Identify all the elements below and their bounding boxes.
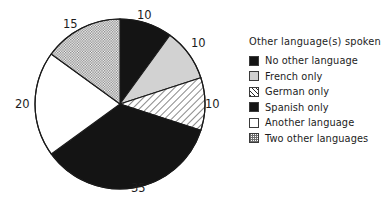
legend-swatch-icon	[249, 87, 259, 97]
legend-title: Other language(s) spoken	[249, 36, 387, 47]
legend-swatch-icon	[249, 102, 259, 112]
legend-item-label: German only	[265, 86, 329, 97]
pie-slices-group	[35, 19, 205, 189]
pie-chart-figure: 10 10 10 35 20 15 Other language(s) spok…	[0, 0, 389, 201]
legend-item-label: Another language	[265, 117, 354, 128]
pie-label-french-only: 10	[191, 38, 206, 50]
pie-svg	[0, 0, 240, 201]
legend-item-label: No other language	[265, 55, 358, 66]
legend-item-label: French only	[265, 71, 322, 82]
pie-label-another-language: 20	[15, 99, 30, 111]
legend-item-spanish-only: Spanish only	[249, 100, 387, 116]
legend-swatch-icon	[249, 71, 259, 81]
legend-item-two-other-languages: Two other languages	[249, 131, 387, 147]
pie-label-german-only: 10	[205, 99, 220, 111]
pie-label-two-other-languages: 15	[63, 19, 78, 31]
legend-item-french-only: French only	[249, 69, 387, 85]
legend-item-label: Two other languages	[265, 133, 368, 144]
legend-swatch-icon	[249, 133, 259, 143]
legend-item-german-only: German only	[249, 84, 387, 100]
legend-item-no-other-language: No other language	[249, 53, 387, 69]
legend-swatch-icon	[249, 56, 259, 66]
legend-item-another-language: Another language	[249, 115, 387, 131]
pie-label-no-other-language: 10	[137, 10, 152, 22]
pie-label-spanish-only: 35	[131, 183, 146, 195]
legend-item-label: Spanish only	[265, 102, 329, 113]
legend-swatch-icon	[249, 118, 259, 128]
pie-plot-area: 10 10 10 35 20 15	[0, 0, 240, 201]
legend: Other language(s) spoken No other langua…	[249, 36, 387, 146]
